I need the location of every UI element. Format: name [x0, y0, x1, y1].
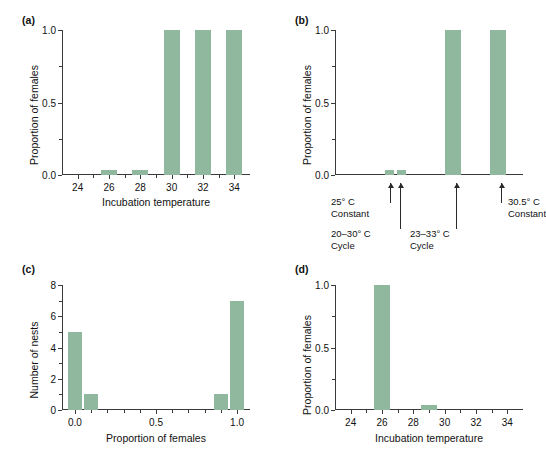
tick-x-minor-a-3	[187, 175, 188, 178]
xtick-label-d-3: 30	[439, 417, 450, 428]
panel-d-plot: 0.00.51.0242628303234	[335, 285, 523, 410]
bar-c-1	[84, 394, 98, 410]
tick-x-minor-d-2	[429, 410, 430, 413]
bar-d-0	[374, 285, 390, 410]
xtick-label-d-5: 34	[502, 417, 513, 428]
panel-a-y-axis	[62, 30, 63, 175]
tick-y-minor-c-0	[59, 394, 62, 395]
panel-b-y-axis	[335, 30, 336, 175]
tick-x-a-2	[140, 175, 141, 179]
tick-x-minor-c-1	[107, 410, 108, 413]
panel-b-arrow-305c	[501, 183, 502, 203]
panel-b-annotation-2333c-line2: Cycle	[410, 240, 450, 252]
panel-a-label: (a)	[22, 14, 35, 26]
ytick-label-a-2: 1.0	[42, 25, 56, 36]
ytick-label-a-0: 0.0	[42, 170, 56, 181]
tick-x-a-0	[78, 175, 79, 179]
tick-x-minor-a-4	[219, 175, 220, 178]
panel-d-ylabel: Proportion of females	[301, 315, 313, 415]
xtick-label-c-0: 0.0	[68, 417, 82, 428]
xtick-label-d-4: 32	[470, 417, 481, 428]
panel-c-ylabel: Number of nests	[28, 321, 40, 398]
panel-d-plotarea	[335, 285, 523, 410]
tick-x-minor-a-0	[93, 175, 94, 178]
ytick-label-c-3: 6	[50, 311, 56, 322]
tick-x-d-4	[476, 410, 477, 414]
tick-y-minor-b-0	[332, 139, 335, 140]
xtick-label-a-0: 24	[72, 182, 83, 193]
panel-d: (d) Proportion of females 0.00.51.024262…	[273, 255, 546, 461]
xtick-label-a-3: 30	[166, 182, 177, 193]
panel-b-label: (b)	[295, 14, 309, 26]
tick-x-a-3	[172, 175, 173, 179]
tick-y-minor-a-0	[59, 139, 62, 140]
tick-y-d-2	[331, 285, 335, 286]
panel-b-annotation-25c: 25° C Constant	[331, 196, 369, 219]
panel-c-plotarea	[62, 285, 250, 410]
panel-b-plot: 0.00.51.0	[335, 30, 523, 175]
tick-y-minor-a-1	[59, 66, 62, 67]
tick-y-a-2	[58, 30, 62, 31]
xtick-label-a-2: 28	[135, 182, 146, 193]
tick-x-minor-d-4	[492, 410, 493, 413]
panel-b-annotation-2030c-line2: Cycle	[331, 240, 371, 252]
tick-x-minor-c-6	[205, 410, 206, 413]
tick-x-d-5	[507, 410, 508, 414]
panel-b-annotation-2030c: 20–30° C Cycle	[331, 228, 371, 251]
tick-x-d-2	[413, 410, 414, 414]
tick-y-a-0	[58, 175, 62, 176]
tick-x-minor-c-5	[188, 410, 189, 413]
ytick-label-c-1: 2	[50, 373, 56, 384]
ytick-label-b-2: 1.0	[315, 25, 329, 36]
tick-y-d-0	[331, 410, 335, 411]
bar-c-0	[68, 332, 82, 410]
panel-a: (a) Proportion of females 0.00.51.024262…	[0, 0, 273, 231]
tick-y-b-2	[331, 30, 335, 31]
tick-x-a-1	[109, 175, 110, 179]
ytick-label-c-2: 4	[50, 342, 56, 353]
tick-y-c-1	[58, 379, 62, 380]
tick-x-minor-d-0	[366, 410, 367, 413]
tick-y-c-3	[58, 316, 62, 317]
tick-x-minor-c-2	[124, 410, 125, 413]
panel-b-arrow-25c	[390, 183, 391, 203]
panel-b-annotation-25c-line2: Constant	[331, 208, 369, 220]
xtick-label-c-1: 0.5	[149, 417, 163, 428]
tick-y-minor-c-2	[59, 332, 62, 333]
tick-x-a-5	[234, 175, 235, 179]
bar-a-2	[164, 30, 180, 175]
xtick-label-a-1: 26	[103, 182, 114, 193]
tick-x-c-0	[75, 410, 76, 414]
ytick-label-d-2: 1.0	[315, 280, 329, 291]
bar-a-1	[132, 170, 148, 175]
xtick-label-a-5: 34	[229, 182, 240, 193]
tick-y-c-4	[58, 285, 62, 286]
tick-x-minor-c-4	[172, 410, 173, 413]
panel-c-xlabel: Proportion of females	[106, 432, 206, 444]
panel-d-xlabel: Incubation temperature	[375, 432, 483, 444]
bar-a-4	[226, 30, 242, 175]
tick-y-a-1	[58, 103, 62, 104]
xtick-label-c-2: 1.0	[230, 417, 244, 428]
bar-a-0	[101, 170, 117, 175]
panel-c: (c) Number of nests 024680.00.51.0 Propo…	[0, 255, 273, 461]
bar-b-1	[397, 170, 406, 175]
tick-y-d-1	[331, 348, 335, 349]
ytick-label-c-4: 8	[50, 280, 56, 291]
panel-a-plot: 0.00.51.0242628303234	[62, 30, 250, 175]
tick-x-d-3	[445, 410, 446, 414]
panel-a-plotarea	[62, 30, 250, 175]
panel-b-arrow-2333c	[456, 183, 457, 229]
panel-b-annotation-2333c: 23–33° C Cycle	[410, 228, 450, 251]
tick-y-minor-d-0	[332, 379, 335, 380]
panel-c-plot: 024680.00.51.0	[62, 285, 250, 410]
tick-x-minor-a-1	[125, 175, 126, 178]
tick-x-d-1	[382, 410, 383, 414]
tick-y-c-2	[58, 348, 62, 349]
bar-b-2	[445, 30, 461, 175]
figure-root: (a) Proportion of females 0.00.51.024262…	[0, 0, 546, 461]
xtick-label-d-0: 24	[345, 417, 356, 428]
panel-a-xlabel: Incubation temperature	[102, 196, 210, 208]
panel-c-y-axis	[62, 285, 63, 410]
tick-y-c-0	[58, 410, 62, 411]
